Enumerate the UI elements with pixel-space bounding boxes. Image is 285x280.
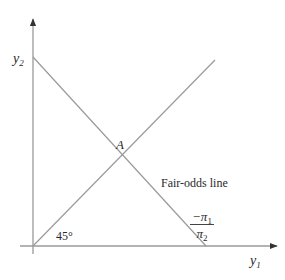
y-axis-label-subscript: 2	[19, 58, 24, 68]
slope-numerator-main: −π	[192, 209, 207, 224]
diagram-canvas	[0, 0, 285, 280]
x-axis-label-subscript: 1	[256, 260, 261, 270]
slope-denominator: π2	[196, 227, 207, 240]
fair-odds-line-label: Fair-odds line	[161, 177, 228, 189]
x-axis-label: y1	[250, 254, 261, 268]
slope-denominator-subscript: 2	[203, 233, 208, 243]
certainty-line-45-degree	[33, 60, 215, 246]
slope-numerator: −π1	[192, 210, 212, 223]
slope-fraction: −π1 π2	[190, 210, 214, 240]
angle-label-45-degree: 45°	[56, 230, 73, 242]
intersection-point-label: A	[116, 138, 124, 151]
slope-numerator-subscript: 1	[207, 216, 212, 226]
y-axis-label: y2	[13, 52, 24, 66]
